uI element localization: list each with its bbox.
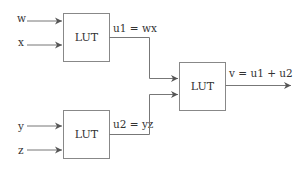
lut-block-1-label: LUT: [75, 31, 99, 44]
input-label-y: y: [17, 120, 24, 132]
lut-block-1: LUT: [64, 14, 110, 62]
lut-block-2-label: LUT: [75, 128, 99, 141]
lut-block-2: LUT: [64, 111, 110, 159]
output-label-v: v = u1 + u2: [228, 67, 293, 79]
connector-u1: [110, 38, 179, 79]
input-label-x: x: [18, 36, 24, 48]
output-label-u2: u2 = yz: [113, 118, 154, 130]
lut-block-3-label: LUT: [191, 80, 215, 93]
input-label-z: z: [18, 144, 24, 156]
lut-diagram: w x y z LUT LUT LUT u1 = wx u2 = yz v = …: [0, 0, 308, 171]
output-label-u1: u1 = wx: [113, 22, 157, 34]
input-label-w: w: [17, 12, 26, 24]
lut-block-3: LUT: [180, 63, 226, 111]
